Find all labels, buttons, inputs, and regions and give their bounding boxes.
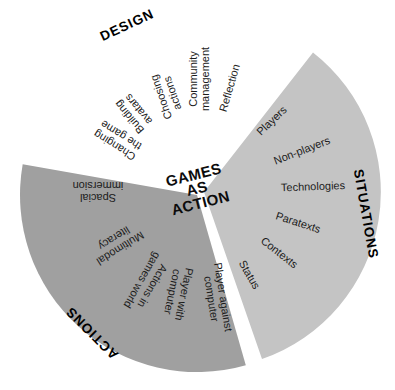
games-as-action-diagram: DESIGN SITUATIONS ACTIONS GAMES AS ACTIO… <box>0 0 395 390</box>
actions-item-spacial-immersion: Spacial immersion <box>73 179 124 202</box>
design-item-community-management: Community management <box>188 47 211 111</box>
situations-item-technologies: Technologies <box>281 180 346 194</box>
